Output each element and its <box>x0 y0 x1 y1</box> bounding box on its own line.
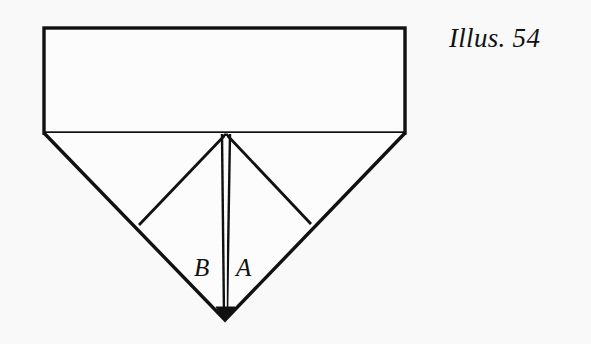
flap-label-a: A <box>236 255 251 280</box>
figure-root: Illus. 54 B A <box>0 0 591 344</box>
paper-rectangle <box>44 28 405 133</box>
paper-rectangle-group <box>44 28 405 133</box>
flap-label-b: B <box>194 255 209 280</box>
illustration-caption: Illus. 54 <box>449 23 540 53</box>
